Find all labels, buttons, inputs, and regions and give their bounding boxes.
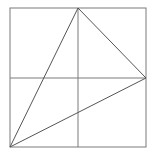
diagram-canvas [0,0,156,157]
